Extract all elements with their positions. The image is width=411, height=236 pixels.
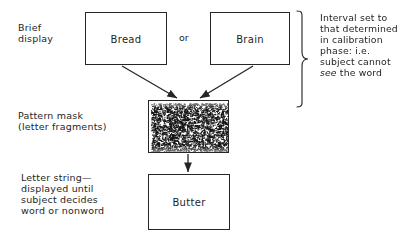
- diagram-canvas: Brief display Pattern mask (letter fragm…: [0, 0, 411, 236]
- note-line: Interval set to: [320, 12, 398, 23]
- note-line: in calibration: [320, 34, 398, 45]
- note-interval-description: Interval set tothat determinedin calibra…: [320, 12, 398, 78]
- stage-label-letter-string: Letter string— displayed until subject d…: [21, 172, 104, 216]
- box-butter: Butter: [148, 174, 230, 230]
- pattern-mask-texture: [151, 103, 228, 152]
- box-brain: Brain: [210, 12, 290, 65]
- stage-label-brief-display: Brief display: [18, 22, 53, 44]
- note-line: see the word: [320, 67, 398, 78]
- note-line: that determined: [320, 23, 398, 34]
- brace-bracket: [295, 10, 315, 108]
- box-bread-label: Bread: [86, 33, 166, 44]
- note-emphasis-word: see: [320, 67, 337, 78]
- arrow-bread-to-mask: [122, 66, 177, 98]
- note-line: phase: i.e.: [320, 45, 398, 56]
- box-brain-label: Brain: [211, 33, 289, 44]
- box-pattern-mask: [148, 100, 229, 153]
- arrow-brain-to-mask: [200, 66, 253, 98]
- box-butter-label: Butter: [149, 197, 229, 208]
- note-line: subject cannot: [320, 56, 398, 67]
- box-bread: Bread: [85, 12, 167, 65]
- or-connector-label: or: [179, 32, 189, 43]
- stage-label-pattern-mask: Pattern mask (letter fragments): [18, 110, 107, 132]
